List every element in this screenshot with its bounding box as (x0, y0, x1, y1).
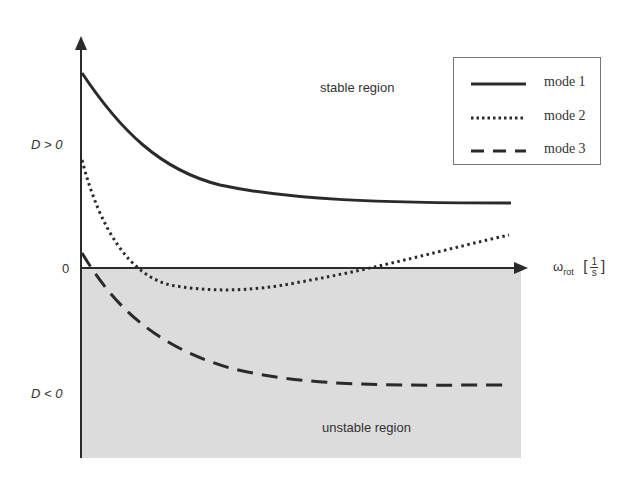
x-axis-label: ωrot [1s] (553, 257, 605, 278)
mode-1-curve (82, 73, 511, 203)
dotted-line-icon (471, 108, 531, 128)
solid-line-icon (471, 74, 531, 94)
legend: mode 1 mode 2 mode 3 (453, 57, 601, 165)
legend-label: mode 1 (544, 74, 586, 90)
unit-denominator: s (590, 268, 598, 278)
legend-item-mode-3: mode 3 (454, 141, 600, 161)
y-tick-negative: D < 0 (31, 386, 62, 401)
legend-label: mode 2 (544, 108, 586, 124)
omega-symbol: ω (553, 259, 563, 274)
omega-subscript: rot (563, 267, 574, 277)
unit-fraction: 1s (590, 257, 598, 278)
bracket-close: ] (601, 257, 605, 274)
legend-item-mode-2: mode 2 (454, 108, 600, 128)
stable-region-label: stable region (320, 80, 394, 95)
dashed-line-icon (471, 141, 531, 161)
bracket-open: [ (583, 257, 587, 274)
legend-label: mode 3 (544, 141, 586, 157)
unstable-region-fill (81, 268, 521, 458)
y-axis-arrow-icon (75, 36, 87, 50)
y-tick-positive: D > 0 (31, 137, 62, 152)
y-tick-zero: 0 (62, 261, 69, 276)
legend-item-mode-1: mode 1 (454, 74, 600, 94)
unstable-region-label: unstable region (322, 420, 411, 435)
